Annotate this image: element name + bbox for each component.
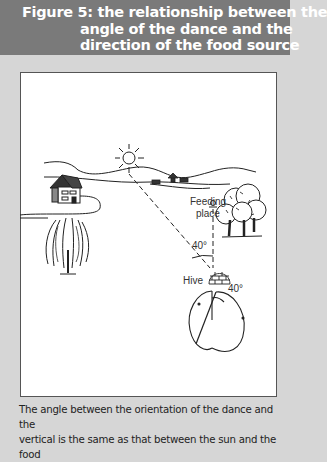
feeding-place-label-1: Feeding: [190, 196, 226, 207]
hive-icon: [209, 272, 230, 284]
hive-label: Hive: [183, 275, 203, 286]
house-icon: [50, 175, 82, 203]
waggle-dance-figure-icon: [189, 291, 244, 351]
angle-label-top: 40°: [192, 240, 207, 251]
angle-arc-top: [192, 255, 213, 258]
caption-line-2: vertical is the same as that between the…: [19, 432, 289, 462]
sun-icon: [115, 144, 144, 173]
feeding-place-label-2: place: [196, 208, 220, 219]
caption-line-1: The angle between the orientation of the…: [19, 402, 289, 432]
figure-caption: The angle between the orientation of the…: [19, 402, 289, 462]
trees-icon: [216, 184, 266, 237]
angle-label-dance: 40°: [228, 283, 243, 294]
willow-tree-icon: [46, 218, 89, 274]
